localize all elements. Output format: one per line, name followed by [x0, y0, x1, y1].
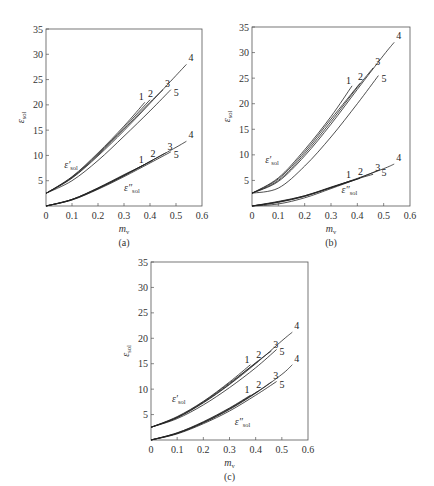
x-tick-label: 0.5 — [170, 210, 183, 221]
y-tick-label: 35 — [138, 257, 148, 268]
x-tick-label: 0.5 — [377, 210, 390, 221]
x-tick-label: 0.4 — [144, 210, 157, 221]
curve-number-label: 4 — [294, 353, 299, 364]
x-tick-label: 0.3 — [325, 210, 338, 221]
y-tick-label: 25 — [239, 73, 249, 84]
curve-number-label: 1 — [244, 354, 249, 365]
x-tick-label: 0.5 — [276, 444, 289, 455]
y-tick-label: 10 — [239, 149, 249, 160]
y-tick-label: 10 — [138, 384, 148, 395]
y-axis-label-group: εsol — [221, 111, 233, 123]
curve-5 — [151, 382, 277, 440]
x-tick-label: 0.6 — [196, 210, 209, 221]
chart-panel-a: 00.10.20.30.40.50.65101520253035mvεsol(a… — [15, 24, 208, 250]
curve-number-label: 1 — [139, 154, 144, 165]
panel-caption: (a) — [118, 237, 129, 249]
real-part-label: ε′sol — [265, 154, 279, 166]
x-tick-label: 0 — [149, 444, 154, 455]
curve-1 — [252, 180, 352, 206]
curve-3 — [151, 382, 271, 440]
y-tick-label: 5 — [38, 175, 43, 186]
curve-1 — [46, 102, 145, 193]
figure-three-panel-permittivity-charts: 00.10.20.30.40.50.65101520253035mvεsol(a… — [0, 0, 434, 486]
curve-number-label: 1 — [346, 75, 351, 86]
x-tick-label: 0.2 — [92, 210, 105, 221]
imag-part-label: ε″sol — [124, 182, 140, 194]
curve-number-label: 4 — [188, 52, 193, 63]
curve-number-label: 5 — [174, 87, 179, 98]
curve-number-label: 1 — [139, 91, 144, 102]
curve-number-label: 4 — [188, 129, 193, 140]
x-tick-label: 0.3 — [118, 210, 131, 221]
y-axis-label: εsol — [15, 112, 27, 124]
curve-1 — [252, 86, 352, 193]
curve-number-label: 4 — [396, 152, 401, 163]
curve-number-label: 5 — [381, 73, 386, 84]
y-axis-label-group: εsol — [120, 345, 132, 357]
y-tick-label: 25 — [33, 74, 43, 85]
x-tick-label: 0 — [44, 210, 49, 221]
curve-5 — [46, 90, 171, 194]
curve-4 — [252, 164, 394, 206]
x-tick-label: 0.6 — [302, 444, 315, 455]
real-part-label: ε′sol — [64, 159, 78, 171]
real-part-label: ε′sol — [172, 393, 186, 405]
imag-part-label: ε″sol — [342, 184, 358, 196]
curve-number-label: 2 — [151, 148, 156, 159]
y-axis-label: εsol — [221, 111, 233, 123]
curve-number-label: 1 — [244, 384, 249, 395]
y-axis-label-group: εsol — [15, 112, 27, 124]
curve-number-label: 2 — [358, 166, 363, 177]
curve-number-label: 1 — [346, 169, 351, 180]
x-tick-label: 0 — [250, 210, 255, 221]
y-axis-label: εsol — [120, 345, 132, 357]
x-tick-label: 0.4 — [351, 210, 364, 221]
y-tick-label: 30 — [33, 49, 43, 60]
curve-3 — [151, 351, 271, 427]
y-tick-label: 5 — [244, 175, 249, 186]
curve-number-label: 4 — [396, 30, 401, 41]
curve-3 — [252, 68, 373, 193]
y-tick-label: 35 — [33, 24, 43, 35]
y-tick-label: 20 — [138, 333, 148, 344]
x-axis-label: mv — [224, 457, 235, 469]
y-tick-label: 15 — [33, 125, 43, 136]
real-part-curves: 12345ε′sol — [46, 52, 193, 193]
x-tick-label: 0.6 — [404, 210, 417, 221]
curve-number-label: 5 — [280, 346, 285, 357]
curve-number-label: 2 — [256, 379, 261, 390]
y-tick-label: 25 — [138, 307, 148, 318]
chart-panel-b: 00.10.20.30.40.50.65101520253035mvεsol(b… — [221, 22, 416, 250]
x-tick-label: 0.1 — [66, 210, 79, 221]
panel-caption: (b) — [325, 237, 337, 249]
x-tick-label: 0.2 — [197, 444, 210, 455]
curve-number-label: 5 — [174, 149, 179, 160]
x-tick-label: 0.1 — [171, 444, 184, 455]
y-tick-label: 30 — [138, 282, 148, 293]
curve-number-label: 5 — [381, 167, 386, 178]
curve-number-label: 2 — [148, 88, 153, 99]
y-tick-label: 35 — [239, 22, 249, 33]
curve-2 — [252, 83, 360, 193]
x-tick-label: 0.1 — [272, 210, 285, 221]
curve-number-label: 4 — [294, 320, 299, 331]
y-tick-label: 15 — [239, 124, 249, 135]
x-axis-label: mv — [326, 223, 337, 235]
y-tick-label: 5 — [143, 409, 148, 420]
x-tick-label: 0.3 — [223, 444, 236, 455]
curve-number-label: 5 — [280, 379, 285, 390]
y-tick-label: 20 — [33, 99, 43, 110]
x-tick-label: 0.2 — [298, 210, 311, 221]
curve-4 — [46, 141, 186, 206]
y-tick-label: 20 — [239, 98, 249, 109]
x-tick-label: 0.4 — [249, 444, 262, 455]
x-axis-label: mv — [119, 223, 130, 235]
y-tick-label: 15 — [138, 358, 148, 369]
imag-part-label: ε″sol — [235, 416, 251, 428]
y-tick-label: 10 — [33, 150, 43, 161]
panel-caption: (c) — [224, 471, 235, 483]
curve-4 — [252, 42, 394, 193]
chart-panel-c: 00.10.20.30.40.50.65101520253035mvεsol(c… — [120, 257, 314, 484]
y-tick-label: 30 — [239, 47, 249, 58]
